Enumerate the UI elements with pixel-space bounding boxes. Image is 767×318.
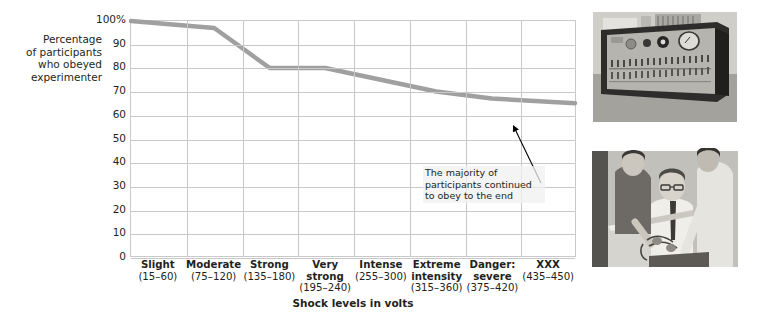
x-tick-danger-severe: Danger: severe(375–420) xyxy=(465,259,521,294)
x-tick-range: (195–240) xyxy=(297,282,353,294)
plot-grid xyxy=(131,21,575,256)
y-tick-label: 20 xyxy=(92,204,126,215)
milgram-obedience-figure: Percentage of participants who obeyed ex… xyxy=(0,0,767,318)
shock-generator-photo xyxy=(589,8,741,126)
gridline-horizontal xyxy=(131,45,575,46)
gridline-horizontal xyxy=(131,140,575,141)
gridline-vertical xyxy=(466,21,467,256)
learner-electrode-chair-photo xyxy=(589,148,741,270)
x-tick-slight: Slight(15–60) xyxy=(130,259,186,282)
gridline-vertical xyxy=(298,21,299,256)
x-tick-range: (435–450) xyxy=(520,271,576,283)
x-tick-label: Moderate xyxy=(186,259,242,271)
y-tick-label: 40 xyxy=(92,156,126,167)
x-tick-moderate: Moderate(75–120) xyxy=(186,259,242,282)
y-tick-label: 60 xyxy=(92,109,126,120)
y-tick-label: 100% xyxy=(92,14,126,25)
x-tick-range: (75–120) xyxy=(186,271,242,283)
gridline-vertical xyxy=(521,21,522,256)
gridline-horizontal xyxy=(131,116,575,117)
y-axis-ticks: 100%9080706050403020100 xyxy=(92,20,126,257)
x-tick-label: Intense xyxy=(353,259,409,271)
gridline-horizontal xyxy=(131,92,575,93)
y-tick-label: 70 xyxy=(92,85,126,96)
x-tick-range: (15–60) xyxy=(130,271,186,283)
x-tick-intense: Intense(255–300) xyxy=(353,259,409,282)
y-tick-label: 90 xyxy=(92,38,126,49)
gridline-vertical xyxy=(243,21,244,256)
x-tick-range: (255–300) xyxy=(353,271,409,283)
gridline-horizontal xyxy=(131,68,575,69)
photo-column xyxy=(589,8,741,270)
x-tick-xxx: XXX(435–450) xyxy=(520,259,576,282)
x-tick-range: (315–360) xyxy=(409,282,465,294)
x-tick-range: (375–420) xyxy=(465,282,521,294)
gridline-vertical xyxy=(187,21,188,256)
x-tick-label: Danger: severe xyxy=(465,259,521,282)
chart-annotation: The majority of participants continued t… xyxy=(423,166,545,203)
y-axis-title: Percentage of participants who obeyed ex… xyxy=(12,33,102,83)
x-tick-label: Slight xyxy=(130,259,186,271)
x-tick-range: (135–180) xyxy=(242,271,298,283)
y-tick-label: 10 xyxy=(92,227,126,238)
y-tick-label: 80 xyxy=(92,61,126,72)
x-axis-title: Shock levels in volts xyxy=(130,297,576,309)
obedience-data-line xyxy=(131,21,575,256)
x-tick-label: Extreme intensity xyxy=(409,259,465,282)
gridline-horizontal xyxy=(131,234,575,235)
x-tick-label: Strong xyxy=(242,259,298,271)
y-tick-label: 50 xyxy=(92,133,126,144)
photo-credit-wrapper: Stanley Milgram, from the film Obedience… xyxy=(745,0,763,275)
y-tick-label: 0 xyxy=(92,251,126,262)
gridline-horizontal xyxy=(131,211,575,212)
gridline-vertical xyxy=(410,21,411,256)
x-tick-strong: Strong(135–180) xyxy=(242,259,298,282)
gridline-vertical xyxy=(354,21,355,256)
x-tick-label: XXX xyxy=(520,259,576,271)
gridline-horizontal xyxy=(131,163,575,164)
x-tick-extreme-intensity: Extreme intensity(315–360) xyxy=(409,259,465,294)
x-tick-very-strong: Very strong(195–240) xyxy=(297,259,353,294)
x-tick-label: Very strong xyxy=(297,259,353,282)
y-tick-label: 30 xyxy=(92,180,126,191)
plot-area: The majority of participants continued t… xyxy=(130,20,576,257)
